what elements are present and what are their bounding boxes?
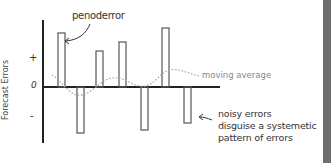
tick-minus: - (30, 110, 34, 121)
bar-3 (96, 51, 103, 87)
bar-4 (119, 42, 126, 87)
note-line-1: noisy errors (218, 108, 317, 120)
bar-1 (58, 33, 65, 87)
moving-average-label: moving average (202, 70, 271, 80)
tick-plus: + (29, 52, 37, 63)
bar-2 (77, 87, 84, 133)
tick-zero: 0 (31, 80, 37, 90)
note-line-3: pattern of errors (218, 132, 317, 144)
noisy-errors-note: noisy errors disguise a systemetic patte… (218, 108, 317, 144)
periodic-error-label: penoderror (72, 10, 125, 21)
bar-6 (162, 28, 169, 87)
arrow-periodic (66, 24, 90, 41)
note-line-2: disguise a systemetic (218, 120, 317, 132)
error-bars (58, 28, 191, 133)
bar-5 (141, 87, 148, 130)
bar-7 (184, 87, 191, 123)
y-axis-label: Forecast Errors (1, 60, 10, 120)
